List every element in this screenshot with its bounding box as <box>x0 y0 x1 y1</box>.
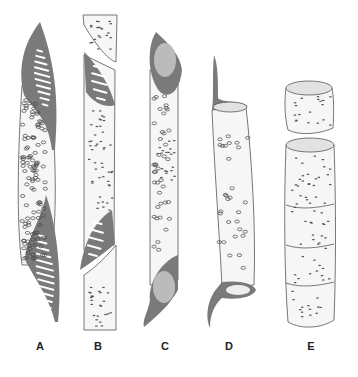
pit-mark <box>91 296 93 297</box>
pit-mark <box>301 316 303 317</box>
pit-mark <box>91 181 93 182</box>
pit-mark <box>309 315 311 316</box>
pit-mark <box>309 112 311 113</box>
pit-mark <box>162 150 164 151</box>
pit-mark <box>157 153 159 154</box>
pit-mark <box>108 21 110 22</box>
pit-mark <box>96 208 98 209</box>
pit-mark <box>315 196 317 197</box>
pit-mark <box>321 275 323 276</box>
pit-mark <box>309 309 311 310</box>
pit-mark <box>304 221 306 222</box>
pit-mark <box>323 224 325 225</box>
pit-mark <box>109 37 111 38</box>
pit-mark <box>110 23 112 24</box>
pit-mark <box>88 159 90 160</box>
pit-mark <box>101 163 103 164</box>
pit-mark <box>329 184 331 185</box>
pit-mark <box>305 197 307 198</box>
pit-mark <box>90 25 92 26</box>
pit-mark <box>165 173 167 174</box>
pit-mark <box>168 141 170 142</box>
pit-mark <box>109 312 111 313</box>
perforation-d-bottom <box>226 285 250 295</box>
pit-mark <box>319 101 321 102</box>
pit-mark <box>318 242 320 243</box>
pit-mark <box>317 244 319 245</box>
pit-mark <box>90 300 92 301</box>
pit-mark <box>327 221 329 222</box>
pit-mark <box>309 203 311 204</box>
pit-mark <box>312 239 314 240</box>
pit-mark <box>102 176 104 177</box>
pit-mark <box>294 102 296 103</box>
pit-mark <box>329 125 331 126</box>
pit-mark <box>103 147 105 148</box>
pit-mark <box>103 120 105 121</box>
pit-mark <box>100 119 102 120</box>
pit-mark <box>317 99 319 100</box>
pit-mark <box>171 179 173 180</box>
pit-mark <box>103 148 105 149</box>
panel-label-a: A <box>30 340 50 352</box>
pit-mark <box>317 96 319 97</box>
pit-mark <box>98 35 100 36</box>
pit-mark <box>291 211 293 212</box>
pit-mark <box>89 292 91 293</box>
pit-mark <box>98 177 100 178</box>
pit-mark <box>302 180 304 181</box>
pit-mark <box>167 152 169 153</box>
pit-mark <box>295 120 297 121</box>
panel-label-c: C <box>155 340 175 352</box>
pit-mark <box>109 48 111 49</box>
pit-mark <box>108 185 110 186</box>
pit-mark <box>99 37 101 38</box>
pit-mark <box>317 123 319 124</box>
pit-mark <box>301 312 303 313</box>
pit-mark <box>306 199 308 200</box>
pit-mark <box>329 96 331 97</box>
pit-mark <box>307 174 309 175</box>
pit-mark <box>103 301 105 302</box>
pit-mark <box>301 307 303 308</box>
pit-mark <box>97 21 99 22</box>
pit-mark <box>322 279 324 280</box>
pit-mark <box>107 292 109 293</box>
pit-mark <box>90 124 92 125</box>
pit-mark <box>91 149 93 150</box>
pit-mark <box>327 174 329 175</box>
pit-mark <box>295 184 297 185</box>
pit-mark <box>95 169 97 170</box>
perforation-e-top <box>286 81 332 95</box>
pit-mark <box>172 167 174 168</box>
pit-mark <box>102 201 104 202</box>
perforation-d-top <box>213 102 247 112</box>
pit-mark <box>101 167 103 168</box>
pit-mark <box>319 307 321 308</box>
xylem-vessel-figure <box>0 0 358 377</box>
pit-mark <box>160 177 162 178</box>
pit-mark <box>297 185 299 186</box>
pit-mark <box>89 145 91 146</box>
pit-mark <box>316 297 318 298</box>
pit-mark <box>295 105 297 106</box>
pit-mark <box>91 182 93 183</box>
pit-mark <box>106 35 108 36</box>
pit-mark <box>107 32 109 33</box>
pit-mark <box>309 273 311 274</box>
pit-mark <box>102 206 104 207</box>
pit-mark <box>324 248 326 249</box>
pit-mark <box>99 196 101 197</box>
pit-mark <box>101 325 103 326</box>
pit-mark <box>91 304 93 305</box>
pit-mark <box>173 152 175 153</box>
pit-mark <box>294 282 296 283</box>
pit-mark <box>323 166 325 167</box>
pit-mark <box>101 115 103 116</box>
pit-mark <box>96 126 98 127</box>
pit-mark <box>170 170 172 171</box>
pit-mark <box>100 141 102 142</box>
pit-mark <box>296 203 298 204</box>
vessel-element-b <box>80 15 117 330</box>
pit-mark <box>99 322 101 323</box>
